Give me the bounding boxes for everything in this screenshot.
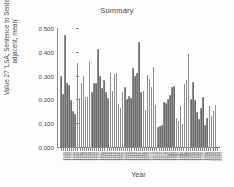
x-axis-tick-mark	[113, 148, 114, 151]
x-axis-tick-mark	[198, 148, 199, 151]
x-axis-tick-label: 2005	[218, 152, 223, 161]
x-axis-tick-mark	[138, 148, 139, 151]
x-axis-tick-mark	[150, 148, 151, 151]
x-axis-tick-mark	[84, 148, 85, 151]
x-axis-tick-mark	[65, 148, 66, 151]
x-axis-tick-mark	[96, 148, 97, 151]
y-axis-tick-label: 0.200	[39, 96, 54, 103]
x-axis-tick-mark	[202, 148, 203, 151]
y-axis-title: Value 27 'LSA, Sentence to Sentence, adj…	[3, 0, 19, 103]
plot-area	[60, 28, 218, 147]
x-axis-tick-mark	[156, 148, 157, 151]
x-axis-tick-mark	[127, 148, 128, 151]
x-axis-tick-mark	[117, 148, 118, 151]
x-axis-tick-mark	[88, 148, 89, 151]
x-axis-tick-mark	[125, 148, 126, 151]
x-axis-tick-mark	[206, 148, 207, 151]
x-axis-tick-mark	[82, 148, 83, 151]
x-axis-tick-mark	[173, 148, 174, 151]
x-axis-tick-mark	[121, 148, 122, 151]
y-axis-tick-label: 0.400	[39, 48, 54, 55]
x-axis-tick-mark	[163, 148, 164, 151]
y-axis-tick-label: 0.500	[39, 25, 54, 32]
x-axis-tick-mark	[115, 148, 116, 151]
x-axis-tick-mark	[177, 148, 178, 151]
x-axis-tick-mark	[67, 148, 68, 151]
chart-title: Summary	[0, 6, 234, 15]
x-axis-tick-mark	[61, 148, 62, 151]
x-axis-tick-mark	[210, 148, 211, 151]
x-axis-tick-mark	[152, 148, 153, 151]
x-axis-tick-mark	[186, 148, 187, 151]
x-axis-tick-mark	[200, 148, 201, 151]
x-axis-tick-mark	[183, 148, 184, 151]
x-axis-tick-mark	[208, 148, 209, 151]
x-axis-tick-mark	[146, 148, 147, 151]
bar	[215, 105, 217, 147]
x-axis-tick-mark	[175, 148, 176, 151]
x-axis-tick-mark	[179, 148, 180, 151]
x-axis-tick-mark	[171, 148, 172, 151]
y-axis-tick-labels: 0.0000.1000.2000.3000.4000.500	[22, 24, 54, 150]
y-axis-line	[57, 28, 58, 148]
x-axis-tick-labels: 1930193119321933193419351936193719381939…	[60, 152, 218, 168]
x-axis-tick-mark	[111, 148, 112, 151]
x-axis-tick-mark	[148, 148, 149, 151]
x-axis-tick-mark	[140, 148, 141, 151]
y-axis-title-container: Value 27 'LSA, Sentence to Sentence, adj…	[0, 0, 22, 103]
x-axis-tick-mark	[169, 148, 170, 151]
y-axis-tick-label: 0.300	[39, 72, 54, 79]
x-axis-tick-mark	[75, 148, 76, 151]
x-axis-tick-mark	[161, 148, 162, 151]
x-axis-tick-mark	[107, 148, 108, 151]
x-axis-tick-mark	[204, 148, 205, 151]
x-axis-tick-mark	[80, 148, 81, 151]
x-axis-tick-mark	[77, 148, 78, 151]
x-axis-tick-mark	[217, 148, 218, 151]
y-axis-tick-label: 0.000	[39, 144, 54, 151]
x-axis-tick-mark	[154, 148, 155, 151]
x-axis-tick-mark	[73, 148, 74, 151]
x-axis-tick-mark	[165, 148, 166, 151]
x-axis-tick-mark	[215, 148, 216, 151]
x-axis-tick-mark	[167, 148, 168, 151]
x-axis-tick-mark	[69, 148, 70, 151]
x-axis-tick-mark	[104, 148, 105, 151]
x-axis-tick-mark	[196, 148, 197, 151]
x-axis-tick-mark	[119, 148, 120, 151]
summary-bar-chart-figure: Summary Value 27 'LSA, Sentence to Sente…	[0, 0, 234, 187]
x-axis-tick-mark	[142, 148, 143, 151]
x-axis-tick-mark	[134, 148, 135, 151]
x-axis-tick-mark	[194, 148, 195, 151]
x-axis-tick-mark	[131, 148, 132, 151]
x-axis-tick-mark	[144, 148, 145, 151]
x-axis-tick-mark	[90, 148, 91, 151]
x-axis-tick-mark	[136, 148, 137, 151]
x-axis-tick-mark	[92, 148, 93, 151]
x-axis-tick-mark	[213, 148, 214, 151]
x-axis-tick-mark	[71, 148, 72, 151]
x-axis-tick-mark	[190, 148, 191, 151]
x-axis-tick-mark	[188, 148, 189, 151]
x-axis-tick-mark	[102, 148, 103, 151]
x-axis-tick-mark	[129, 148, 130, 151]
x-axis-tick-mark	[100, 148, 101, 151]
x-axis-tick-mark	[181, 148, 182, 151]
x-axis-tick-mark	[109, 148, 110, 151]
x-axis-tick-mark	[159, 148, 160, 151]
x-axis-tick-mark	[86, 148, 87, 151]
x-axis-title: Year	[57, 170, 220, 179]
x-axis-tick-mark	[192, 148, 193, 151]
x-axis-tick-mark	[123, 148, 124, 151]
y-axis-tick-label: 0.100	[39, 120, 54, 127]
x-axis-tick-mark	[63, 148, 64, 151]
x-axis-tick-mark	[94, 148, 95, 151]
x-axis-tick-mark	[98, 148, 99, 151]
